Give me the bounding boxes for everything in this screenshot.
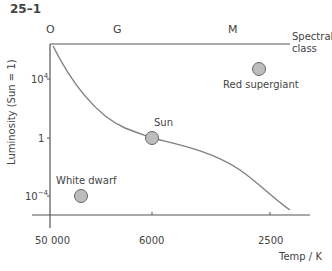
x-tick-label-50000: 50 000 [35, 235, 70, 246]
hr-diagram-chart: 104 1 10−4 50 000 6000 2500 Temp / K Lum… [0, 0, 332, 271]
spectral-class-G: G [113, 23, 122, 36]
white-dwarf-marker [75, 190, 88, 203]
y-tick-label-1: 1 [38, 133, 44, 144]
y-axis-label: Luminosity (Sun = 1) [6, 59, 17, 165]
y-tick-label-1e4: 104 [31, 72, 49, 85]
spectral-class-label-2: class [292, 43, 317, 54]
x-tick-label-2500: 2500 [258, 235, 283, 246]
spectral-class-label: Spectral [292, 31, 332, 42]
y-tick-label-1em4: 10−4 [25, 189, 49, 202]
red-supergiant-marker [253, 63, 266, 76]
spectral-class-M: M [228, 23, 238, 36]
x-axis-label: Temp / K [278, 251, 322, 262]
spectral-class-O: O [46, 23, 55, 36]
sun-marker [146, 132, 159, 145]
x-tick-label-6000: 6000 [139, 235, 164, 246]
red-supergiant-label: Red supergiant [223, 79, 299, 90]
sun-label: Sun [154, 117, 173, 128]
white-dwarf-label: White dwarf [56, 175, 117, 186]
